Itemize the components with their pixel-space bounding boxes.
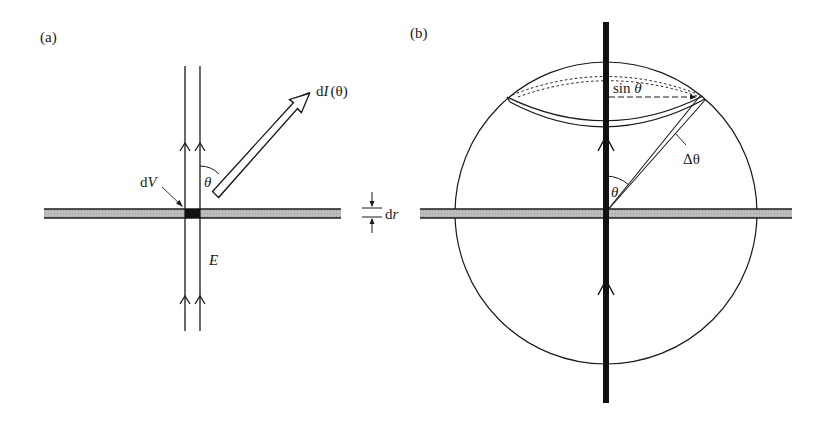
delta-theta-label: Δθ: [683, 151, 700, 167]
upward-arrow-icon: [180, 296, 205, 304]
dV-pointer-arrow-icon: [162, 187, 183, 207]
theta-arc: [200, 166, 219, 174]
diagram-figure: (a): [0, 0, 823, 422]
theta-label-b: θ: [611, 184, 619, 200]
beam-rod: [603, 22, 609, 403]
dr-label: dr: [385, 206, 399, 222]
panel-a: (a): [40, 29, 399, 331]
diagram-svg: (a): [0, 0, 823, 422]
delta-theta-leader: [676, 134, 686, 145]
theta-label: θ: [204, 174, 212, 190]
volume-element-dV: [185, 209, 200, 218]
dI-theta-label: dI(θ): [316, 83, 348, 100]
panel-b: (b) sin θ: [410, 22, 792, 403]
panel-b-label: (b): [410, 25, 428, 42]
dr-thickness-marker: [362, 192, 382, 233]
beam-lines: [185, 66, 200, 331]
dV-label: dV: [140, 174, 159, 190]
dI-hollow-arrow-icon: [213, 93, 310, 198]
E-field-label: E: [208, 252, 218, 268]
upward-arrow-icon: [180, 143, 205, 151]
sin-theta-label: sin θ: [613, 80, 642, 96]
panel-a-label: (a): [40, 29, 57, 46]
